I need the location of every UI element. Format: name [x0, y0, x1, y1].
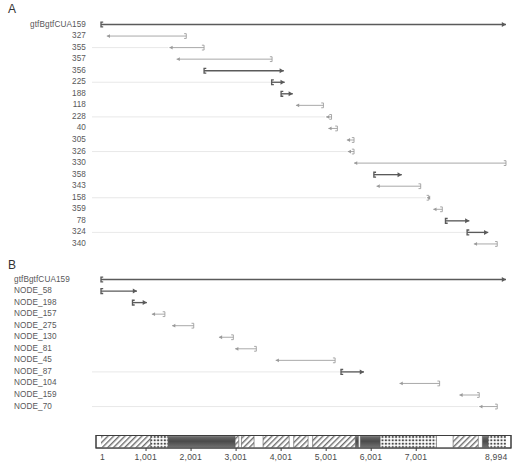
axis-tick-label: 1 [100, 452, 105, 462]
axis-tick-label: 5,001 [315, 452, 338, 462]
axis-tick-label: 8,994 [485, 452, 508, 462]
axis-tick-label: 6,001 [360, 452, 383, 462]
axis-tick-label: 3,001 [225, 452, 248, 462]
axis-tick-label: 2,001 [180, 452, 203, 462]
axis-tick-label: 1,001 [135, 452, 158, 462]
axis-tick-label: 7,001 [405, 452, 428, 462]
axis-tick-label: 4,001 [270, 452, 293, 462]
axis-tick-labels: 11,0012,0013,0014,0015,0016,0017,0018,99… [0, 0, 515, 473]
